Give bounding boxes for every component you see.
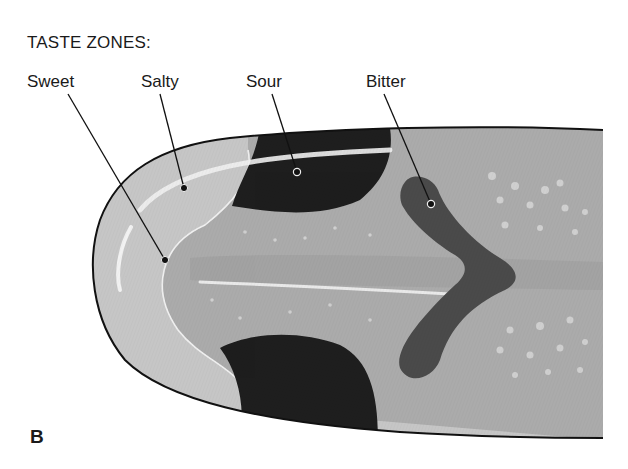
tongue [0, 0, 628, 469]
marker-sour [293, 168, 300, 175]
tongue-diagram [0, 0, 628, 469]
marker-salty [180, 184, 187, 191]
marker-sweet [161, 256, 168, 263]
marker-bitter [427, 200, 434, 207]
